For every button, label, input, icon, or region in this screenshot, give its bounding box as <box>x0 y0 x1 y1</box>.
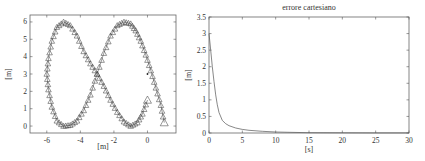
x-tick-label: 25 <box>372 136 380 145</box>
y-tick-label: 1.5 <box>197 79 207 88</box>
x-tick-label: 30 <box>405 136 413 145</box>
x-tick-label: 5 <box>240 136 244 145</box>
left-x-axis-label: [m] <box>97 142 109 151</box>
y-tick-label: 0 <box>23 122 27 131</box>
y-tick-label: 2 <box>202 62 206 71</box>
error-series <box>209 34 409 133</box>
trajectory-series <box>44 19 168 128</box>
y-tick-label: 3 <box>202 29 206 38</box>
y-tick-label: 4 <box>23 52 27 61</box>
error-plot-title: errore cartesiano <box>282 3 336 12</box>
x-tick-label: 10 <box>272 136 280 145</box>
left-plot-frame <box>30 15 176 133</box>
error-curve <box>209 34 409 133</box>
x-tick-label: 0 <box>207 136 211 145</box>
y-tick-label: 2.5 <box>197 46 207 55</box>
y-tick-label: 3 <box>23 70 27 79</box>
target-point <box>147 73 149 75</box>
x-tick-label: -2 <box>111 136 117 145</box>
y-tick-label: 1 <box>202 95 206 104</box>
y-tick-label: 2 <box>23 87 27 96</box>
triangle-marker-icon <box>143 96 151 103</box>
x-tick-label: -4 <box>77 136 83 145</box>
left-axis-ticks: -6-4-200123456 <box>23 15 176 145</box>
x-tick-label: 15 <box>305 136 313 145</box>
y-tick-label: 0 <box>202 129 206 138</box>
trajectory-plot: -6-4-200123456 [m] [m] <box>4 15 176 151</box>
y-tick-label: 6 <box>23 17 27 26</box>
right-x-axis-label: [s] <box>305 145 314 154</box>
x-tick-label: -6 <box>44 136 50 145</box>
y-tick-label: 1 <box>23 104 27 113</box>
x-tick-label: 0 <box>146 136 150 145</box>
right-axis-ticks: 05101520253000.511.522.533.5 <box>197 13 413 146</box>
left-y-axis-label: [m] <box>4 68 13 80</box>
error-plot: errore cartesiano 05101520253000.511.522… <box>184 3 413 154</box>
y-tick-label: 5 <box>23 35 27 44</box>
y-tick-label: 0.5 <box>197 112 207 121</box>
right-y-axis-label: [m] <box>184 69 193 81</box>
x-tick-label: 20 <box>339 136 347 145</box>
y-tick-label: 3.5 <box>197 13 207 22</box>
right-plot-frame <box>209 17 409 133</box>
figure: -6-4-200123456 [m] [m] errore cartesiano… <box>0 0 425 161</box>
